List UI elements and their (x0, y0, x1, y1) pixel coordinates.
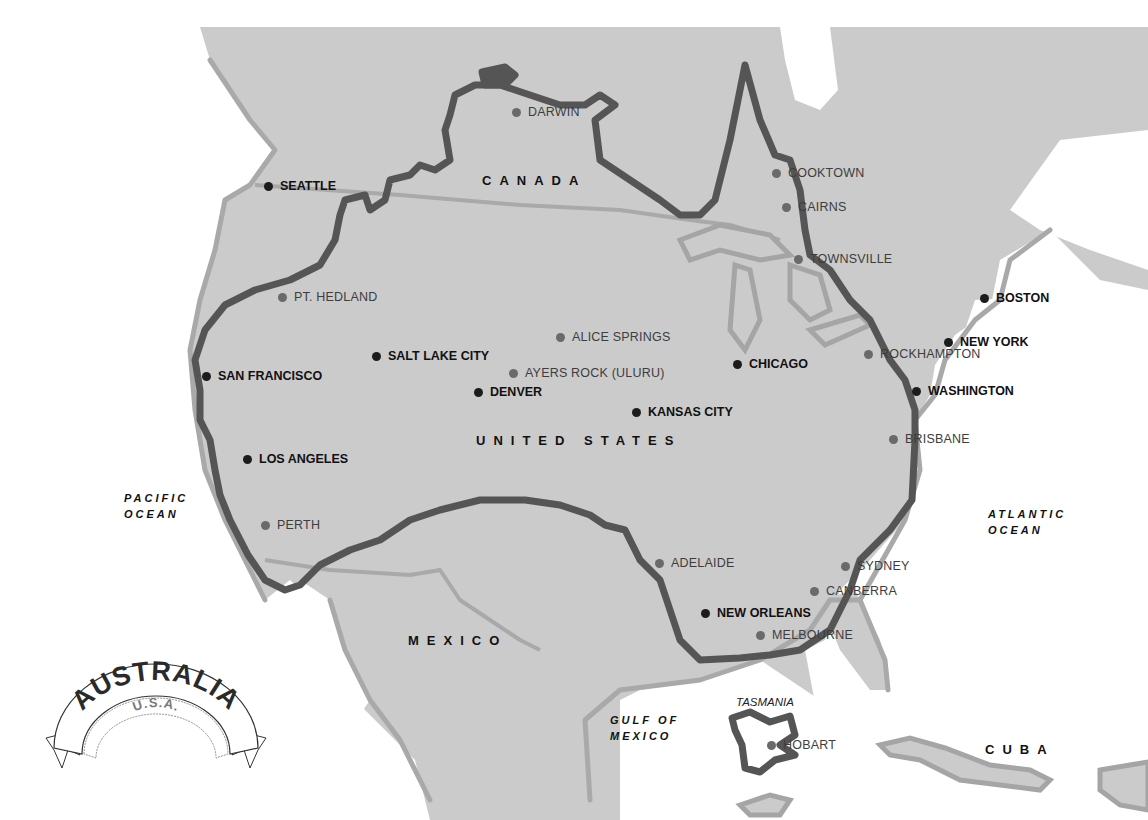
city-marker-kansas-city: KANSAS CITY (632, 405, 733, 419)
city-dot-icon (202, 372, 211, 381)
city-name: CANBERRA (826, 584, 897, 598)
city-name: LOS ANGELES (259, 452, 348, 466)
city-name: AYERS ROCK (ULURU) (525, 366, 665, 380)
city-marker-san-francisco: SAN FRANCISCO (202, 369, 322, 383)
city-marker-canberra: CANBERRA (810, 584, 897, 598)
gulf-line1: GULF OF (610, 712, 679, 728)
city-marker-melbourne: MELBOURNE (756, 628, 853, 642)
city-dot-icon (278, 293, 287, 302)
city-name: SYDNEY (857, 559, 910, 573)
city-name: NEW ORLEANS (717, 606, 811, 620)
city-marker-rockhampton: ROCKHAMPTON (864, 347, 981, 361)
city-dot-icon (767, 741, 776, 750)
city-marker-adelaide: ADELAIDE (655, 556, 734, 570)
city-dot-icon (841, 562, 850, 571)
city-dot-icon (889, 435, 898, 444)
city-dot-icon (556, 333, 565, 342)
city-name: ALICE SPRINGS (572, 330, 670, 344)
city-marker-seattle: SEATTLE (264, 179, 336, 193)
city-dot-icon (632, 408, 641, 417)
atlantic-line1: ATLANTIC (988, 506, 1066, 522)
city-name: KANSAS CITY (648, 405, 733, 419)
tiwi-islands-outline (482, 67, 515, 85)
atlantic-line2: OCEAN (988, 522, 1066, 538)
label-gulf-of-mexico: GULF OF MEXICO (610, 712, 679, 744)
city-dot-icon (912, 387, 921, 396)
city-name: DENVER (490, 385, 542, 399)
city-marker-townsville: TOWNSVILLE (794, 252, 892, 266)
city-marker-new-orleans: NEW ORLEANS (701, 606, 811, 620)
city-name: CHICAGO (749, 357, 808, 371)
city-name: ADELAIDE (671, 556, 734, 570)
city-marker-brisbane: BRISBANE (889, 432, 970, 446)
city-marker-boston: BOSTON (980, 291, 1049, 305)
city-dot-icon (772, 169, 781, 178)
city-dot-icon (701, 609, 710, 618)
city-name: SEATTLE (280, 179, 336, 193)
label-pacific-ocean: PACIFIC OCEAN (124, 490, 188, 522)
city-dot-icon (794, 255, 803, 264)
city-name: SAN FRANCISCO (218, 369, 322, 383)
city-dot-icon (864, 350, 873, 359)
city-marker-denver: DENVER (474, 385, 542, 399)
city-name: BOSTON (996, 291, 1049, 305)
city-dot-icon (733, 360, 742, 369)
label-atlantic-ocean: ATLANTIC OCEAN (988, 506, 1066, 538)
city-name: WASHINGTON (928, 384, 1014, 398)
city-dot-icon (243, 455, 252, 464)
city-name: COOKTOWN (788, 166, 864, 180)
city-name: DARWIN (528, 105, 580, 119)
label-united-states: UNITED STATES (476, 434, 681, 448)
city-marker-salt-lake-city: SALT LAKE CITY (372, 349, 489, 363)
city-dot-icon (655, 559, 664, 568)
city-dot-icon (474, 388, 483, 397)
city-name: TOWNSVILLE (810, 252, 892, 266)
city-dot-icon (782, 203, 791, 212)
city-name: ROCKHAMPTON (880, 347, 981, 361)
city-name: PERTH (277, 518, 320, 532)
city-marker-sydney: SYDNEY (841, 559, 910, 573)
city-marker-chicago: CHICAGO (733, 357, 808, 371)
city-dot-icon (944, 338, 953, 347)
city-name: SALT LAKE CITY (388, 349, 489, 363)
city-dot-icon (509, 369, 518, 378)
pacific-line1: PACIFIC (124, 490, 188, 506)
city-marker-washington: WASHINGTON (912, 384, 1014, 398)
city-name: MELBOURNE (772, 628, 853, 642)
city-dot-icon (756, 631, 765, 640)
city-marker-pt-hedland: PT. HEDLAND (278, 290, 377, 304)
city-dot-icon (512, 108, 521, 117)
gulf-line2: MEXICO (610, 728, 679, 744)
city-marker-alice-springs: ALICE SPRINGS (556, 330, 670, 344)
city-dot-icon (980, 294, 989, 303)
label-tasmania: TASMANIA (736, 695, 794, 709)
city-dot-icon (264, 182, 273, 191)
city-name: PT. HEDLAND (294, 290, 377, 304)
city-name: BRISBANE (905, 432, 970, 446)
label-cuba: CUBA (985, 743, 1055, 757)
city-marker-darwin: DARWIN (512, 105, 580, 119)
city-name: HOBART (783, 738, 836, 752)
city-marker-ayers-rock: AYERS ROCK (ULURU) (509, 366, 665, 380)
city-marker-cairns: CAIRNS (782, 200, 846, 214)
city-dot-icon (261, 521, 270, 530)
label-mexico: MEXICO (408, 634, 507, 648)
city-marker-los-angeles: LOS ANGELES (243, 452, 348, 466)
city-marker-perth: PERTH (261, 518, 320, 532)
city-name: CAIRNS (798, 200, 846, 214)
pacific-line2: OCEAN (124, 506, 188, 522)
city-dot-icon (372, 352, 381, 361)
city-marker-hobart: HOBART (767, 738, 836, 752)
city-marker-cooktown: COOKTOWN (772, 166, 864, 180)
city-dot-icon (810, 587, 819, 596)
label-canada: CANADA (482, 174, 586, 188)
australia-usa-banner-logo: AUSTRALIA U.S.A. (40, 650, 270, 780)
